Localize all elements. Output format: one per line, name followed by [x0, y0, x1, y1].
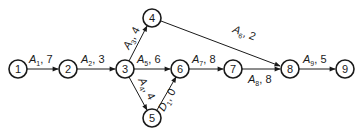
svg-text:A8, 8: A8, 8 [247, 73, 272, 87]
svg-text:5: 5 [149, 112, 155, 124]
svg-text:1: 1 [15, 63, 21, 75]
svg-text:A2, 3: A2, 3 [80, 53, 105, 67]
svg-text:A5, 6: A5, 6 [136, 53, 161, 67]
svg-text:6: 6 [177, 63, 183, 75]
svg-text:A1, 7: A1, 7 [28, 53, 53, 67]
svg-text:9: 9 [342, 63, 348, 75]
svg-text:A7, 8: A7, 8 [191, 53, 216, 67]
edge-d1-dummy: D1, 0 [155, 77, 179, 114]
svg-text:D1, 0: D1, 0 [155, 86, 179, 114]
edge-a9: A9, 5 [299, 53, 335, 69]
node-9: 9 [336, 60, 354, 78]
node-4: 4 [143, 9, 161, 27]
node-7: 7 [224, 60, 242, 78]
svg-text:7: 7 [230, 63, 236, 75]
edge-a1: A1, 7 [27, 53, 58, 69]
network-diagram: A1, 7 A2, 3 A3, 4 A4, 4 A5, 6 A6, 2 A7, … [0, 0, 362, 134]
node-6: 6 [171, 60, 189, 78]
node-8: 8 [281, 60, 299, 78]
svg-text:A6, 2: A6, 2 [230, 22, 258, 44]
edge-a6: A6, 2 [161, 21, 280, 66]
node-1: 1 [9, 60, 27, 78]
svg-text:2: 2 [65, 63, 71, 75]
edge-a4: A4, 4 [129, 74, 158, 110]
svg-text:4: 4 [149, 12, 155, 24]
svg-text:8: 8 [287, 63, 293, 75]
node-5: 5 [143, 109, 161, 127]
svg-text:A9, 5: A9, 5 [302, 53, 327, 67]
node-3: 3 [116, 60, 134, 78]
node-2: 2 [59, 60, 77, 78]
edge-a2: A2, 3 [77, 53, 115, 69]
svg-text:A4, 4: A4, 4 [134, 74, 158, 102]
edge-a5: A5, 6 [134, 53, 170, 69]
svg-text:3: 3 [122, 63, 128, 75]
edge-a7: A7, 8 [189, 53, 223, 69]
edge-a8: A8, 8 [242, 69, 280, 87]
